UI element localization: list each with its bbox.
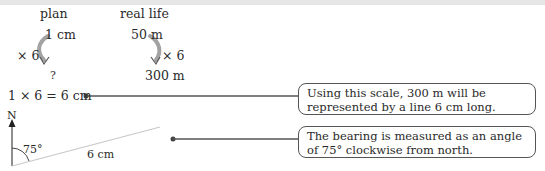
header-plan: plan bbox=[40, 8, 68, 21]
plan-top-value: 1 cm bbox=[45, 29, 76, 42]
plan-multiplier: × 6 bbox=[17, 50, 39, 63]
real-top-value: 50 m bbox=[131, 29, 163, 42]
real-bottom-value: 300 m bbox=[145, 70, 185, 83]
calculation: 1 × 6 = 6 cm bbox=[8, 90, 92, 103]
real-multiplier: × 6 bbox=[162, 50, 184, 63]
angle-label: 75° bbox=[23, 144, 43, 155]
north-label: N bbox=[7, 110, 17, 121]
header-real-life: real life bbox=[120, 8, 169, 21]
callout-bearing: The bearing is measured as an angle of 7… bbox=[298, 126, 536, 158]
callout-scale: Using this scale, 300 m will be represen… bbox=[298, 83, 536, 115]
plan-unknown: ? bbox=[50, 70, 56, 81]
length-label: 6 cm bbox=[87, 149, 114, 160]
